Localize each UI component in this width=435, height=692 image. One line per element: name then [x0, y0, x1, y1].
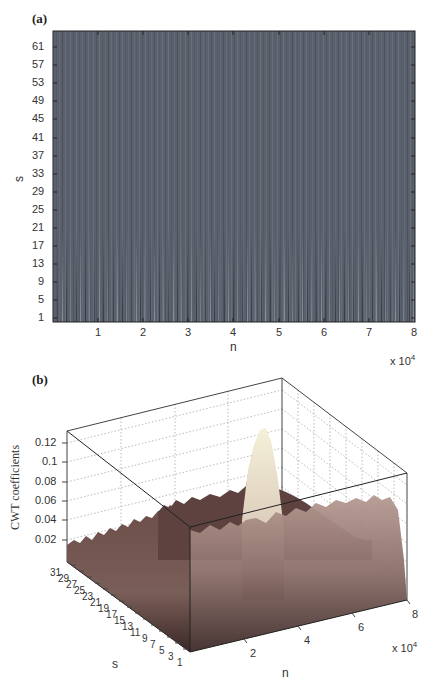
- a-xtick-4: 4: [230, 326, 236, 338]
- a-xtick-7: 7: [366, 326, 372, 338]
- a-xtick-2: 2: [140, 326, 146, 338]
- b-xtick-6: 6: [358, 621, 364, 633]
- a-ytick-61: 61: [32, 40, 44, 52]
- a-ytick-25: 25: [32, 203, 44, 215]
- a-ytick-13: 13: [32, 257, 44, 269]
- b-ztick-0.04: 0.04: [35, 513, 56, 525]
- a-ytick-5: 5: [38, 293, 44, 305]
- b-ytick-5: 5: [159, 645, 165, 656]
- a-ytick-29: 29: [32, 185, 44, 197]
- a-ylabel: s: [12, 176, 26, 182]
- b-xtick-8: 8: [412, 608, 418, 620]
- a-ytick-21: 21: [32, 221, 44, 233]
- a-ytick-57: 57: [32, 58, 44, 70]
- a-xtick-3: 3: [185, 326, 191, 338]
- a-ytick-37: 37: [32, 149, 44, 161]
- a-ytick-49: 49: [32, 94, 44, 106]
- b-x-multiplier: x 104: [392, 640, 417, 654]
- a-ytick-1: 1: [38, 311, 44, 323]
- b-ytick-3: 3: [168, 651, 174, 662]
- a-ytick-53: 53: [32, 76, 44, 88]
- a-ytick-17: 17: [32, 239, 44, 251]
- b-ztick-0.02: 0.02: [35, 533, 56, 545]
- a-xlabel: n: [230, 340, 237, 354]
- a-x-multiplier: x 104: [390, 353, 415, 367]
- b-xtick-4: 4: [304, 634, 310, 646]
- b-ztick-0.06: 0.06: [35, 494, 56, 506]
- b-ytick-9: 9: [142, 633, 148, 644]
- a-ytick-45: 45: [32, 112, 44, 124]
- a-ytick-9: 9: [38, 275, 44, 287]
- b-ztick-0.12: 0.12: [35, 436, 56, 448]
- b-xlabel: n: [282, 666, 289, 680]
- a-xtick-1: 1: [95, 326, 101, 338]
- b-zlabel: CWT coefficients: [8, 445, 23, 530]
- b-ztick-0.08: 0.08: [35, 475, 56, 487]
- b-ytick-11: 11: [130, 627, 140, 638]
- a-xtick-8: 8: [411, 326, 417, 338]
- b-ylabel: s: [112, 657, 118, 671]
- a-xtick-5: 5: [276, 326, 282, 338]
- a-ytick-41: 41: [32, 131, 44, 143]
- a-xtick-6: 6: [321, 326, 327, 338]
- b-xtick-2: 2: [250, 647, 256, 659]
- b-ytick-7: 7: [150, 639, 156, 650]
- a-ytick-33: 33: [32, 167, 44, 179]
- b-ztick-0.1: 0.1: [42, 455, 57, 467]
- b-ytick-1: 1: [177, 657, 183, 668]
